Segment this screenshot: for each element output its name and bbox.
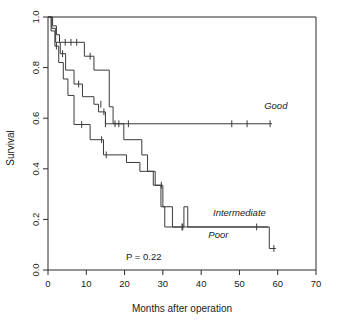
x-tick-label: 50 — [234, 278, 245, 289]
y-tick-label: 0.2 — [30, 213, 41, 226]
y-axis-title: Survival — [5, 130, 16, 166]
x-tick-label: 40 — [196, 278, 207, 289]
chart-background — [0, 0, 350, 320]
x-tick-label: 0 — [45, 278, 50, 289]
x-tick-label: 60 — [272, 278, 283, 289]
y-tick-label: 0.8 — [30, 61, 41, 74]
survival-plot-figure: 010203040506070 0.00.20.40.60.81.0 GoodI… — [0, 0, 350, 320]
kaplan-meier-chart: 010203040506070 0.00.20.40.60.81.0 GoodI… — [0, 0, 350, 320]
x-tick-label: 10 — [81, 278, 92, 289]
y-tick-label: 0.0 — [30, 263, 41, 276]
curve-label-intermediate: Intermediate — [213, 207, 266, 218]
annotation-p-value: P = 0.22 — [126, 251, 161, 262]
x-axis-title: Months after operation — [132, 303, 232, 314]
y-tick-label: 0.4 — [30, 162, 41, 175]
curve-label-good: Good — [264, 100, 288, 111]
curve-label-poor: Poor — [208, 229, 229, 240]
chart-annotations: P = 0.22 — [126, 251, 161, 262]
x-tick-label: 30 — [158, 278, 169, 289]
y-tick-label: 0.6 — [30, 112, 41, 125]
y-tick-label: 1.0 — [30, 10, 41, 23]
x-tick-label: 20 — [119, 278, 130, 289]
x-tick-label: 70 — [311, 278, 322, 289]
